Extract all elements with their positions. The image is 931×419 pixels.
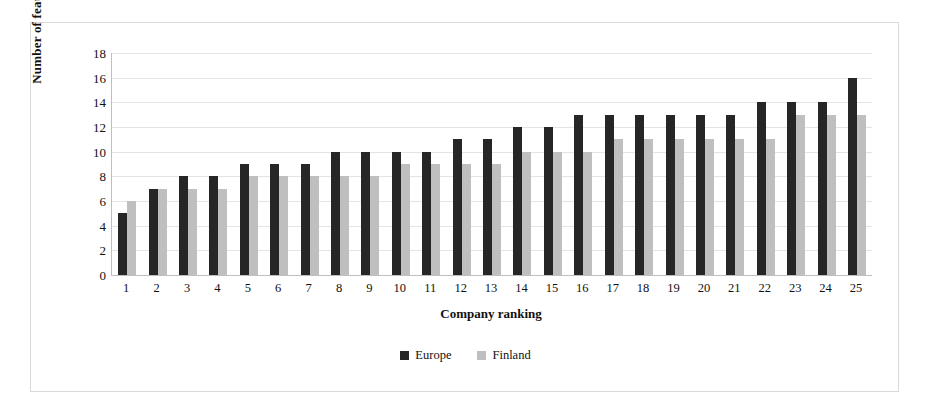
bar-europe [574, 115, 583, 275]
legend-item-finland: Finland [477, 348, 530, 363]
bar-europe [544, 127, 553, 275]
y-axis-tick-label: 0 [66, 275, 106, 276]
legend-label: Finland [492, 348, 530, 363]
bar-group [507, 53, 537, 275]
bar-europe [240, 164, 249, 275]
bar-group [659, 53, 689, 275]
x-axis-tick-label: 22 [750, 281, 780, 296]
bar-europe [666, 115, 675, 275]
bar-europe [757, 102, 766, 275]
bar-finland [705, 139, 714, 275]
bar-group [294, 53, 324, 275]
legend-swatch-icon [477, 351, 486, 360]
chart-frame: Number of features 024681012141618 12345… [30, 22, 899, 392]
bar-europe [301, 164, 310, 275]
y-axis-tick-label: 2 [66, 250, 106, 251]
bar-finland [827, 115, 836, 275]
bar-finland [766, 139, 775, 275]
bar-group [325, 53, 355, 275]
y-axis-tick-label: 6 [66, 201, 106, 202]
bar-group [720, 53, 750, 275]
legend-swatch-icon [400, 351, 409, 360]
bar-europe [726, 115, 735, 275]
x-axis-tick-label: 4 [202, 281, 232, 296]
x-axis-tick-label: 11 [415, 281, 445, 296]
bar-finland [401, 164, 410, 275]
bar-europe [209, 176, 218, 275]
bar-finland [310, 176, 319, 275]
legend-label: Europe [415, 348, 451, 363]
bar-finland [158, 189, 167, 275]
bar-group [264, 53, 294, 275]
bar-group [477, 53, 507, 275]
bar-group [416, 53, 446, 275]
bar-europe [422, 152, 431, 275]
x-axis-tick-label: 10 [385, 281, 415, 296]
bar-group [355, 53, 385, 275]
bar-europe [331, 152, 340, 275]
x-axis-tick-label: 21 [719, 281, 749, 296]
bar-finland [279, 176, 288, 275]
bar-finland [735, 139, 744, 275]
bar-europe [118, 213, 127, 275]
bar-finland [583, 152, 592, 275]
x-axis-tick-label: 6 [263, 281, 293, 296]
bar-europe [361, 152, 370, 275]
y-axis-tick-label: 16 [66, 78, 106, 79]
x-axis-tick-label: 8 [324, 281, 354, 296]
bar-finland [675, 139, 684, 275]
bar-group [629, 53, 659, 275]
bar-group [568, 53, 598, 275]
x-axis-tick-label: 25 [841, 281, 871, 296]
bar-group [599, 53, 629, 275]
x-axis-tick-label: 16 [567, 281, 597, 296]
bar-group [538, 53, 568, 275]
x-axis-tick-label: 24 [810, 281, 840, 296]
bar-europe [392, 152, 401, 275]
x-axis-tick-label: 7 [293, 281, 323, 296]
bar-finland [431, 164, 440, 275]
bar-group [142, 53, 172, 275]
x-axis-tick-label: 17 [598, 281, 628, 296]
bar-europe [635, 115, 644, 275]
bar-group [386, 53, 416, 275]
bar-group [751, 53, 781, 275]
bar-europe [179, 176, 188, 275]
chart-legend: EuropeFinland [31, 348, 900, 363]
bar-finland [127, 201, 136, 275]
x-axis-title: Company ranking [111, 306, 871, 322]
bar-europe [848, 78, 857, 275]
y-axis-title: Number of features [29, 0, 45, 128]
bar-europe [149, 189, 158, 275]
bar-group [781, 53, 811, 275]
bar-europe [483, 139, 492, 275]
y-axis-tick-label: 8 [66, 176, 106, 177]
y-axis-tick-label: 14 [66, 102, 106, 103]
x-axis-tick-label: 12 [445, 281, 475, 296]
bar-finland [188, 189, 197, 275]
bar-group [690, 53, 720, 275]
bar-group [446, 53, 476, 275]
x-axis-tick-label: 14 [506, 281, 536, 296]
x-axis-tick-label: 1 [111, 281, 141, 296]
bar-finland [249, 176, 258, 275]
bar-europe [270, 164, 279, 275]
bar-finland [857, 115, 866, 275]
bar-europe [696, 115, 705, 275]
plot-area: 024681012141618 [111, 53, 872, 276]
legend-item-europe: Europe [400, 348, 451, 363]
bar-finland [370, 176, 379, 275]
x-axis-tick-label: 5 [233, 281, 263, 296]
bar-group [203, 53, 233, 275]
bar-europe [453, 139, 462, 275]
bar-group [112, 53, 142, 275]
x-axis-ticks: 1234567891011121314151617181920212223242… [111, 281, 871, 296]
y-axis-tick-label: 4 [66, 226, 106, 227]
bar-europe [605, 115, 614, 275]
x-axis-tick-label: 2 [141, 281, 171, 296]
bar-group [842, 53, 872, 275]
y-axis-tick-label: 12 [66, 127, 106, 128]
x-axis-tick-label: 13 [476, 281, 506, 296]
bar-finland [462, 164, 471, 275]
x-axis-tick-label: 15 [537, 281, 567, 296]
